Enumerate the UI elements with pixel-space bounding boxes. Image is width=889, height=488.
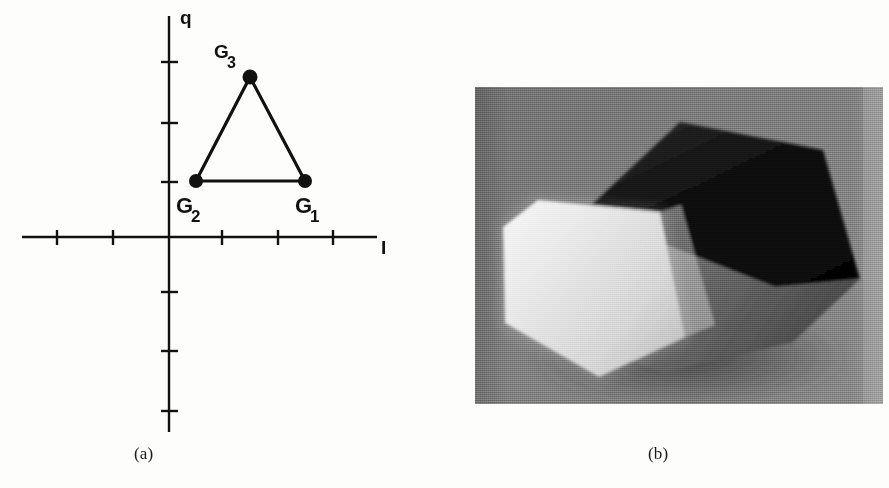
x-axis-label: I	[381, 237, 386, 258]
data-points	[189, 70, 312, 189]
coordinate-plot: q I G 3 G 2 G 1	[0, 0, 440, 440]
point-G3	[243, 70, 258, 85]
caption-panel-a: (a)	[134, 444, 153, 464]
point-G1	[298, 174, 312, 188]
photo-right-highlight	[863, 87, 883, 404]
shaded-block-image	[475, 87, 883, 404]
label-G1-subscript: 1	[310, 207, 319, 226]
triangle-path	[196, 77, 305, 181]
label-G3-subscript: 3	[227, 54, 236, 71]
y-axis-label: q	[180, 7, 192, 28]
label-G2: G 2	[176, 193, 200, 226]
label-G2-subscript: 2	[191, 207, 200, 226]
panel-a-graph: q I G 3 G 2 G 1	[0, 0, 440, 488]
figure-root: q I G 3 G 2 G 1	[0, 0, 889, 488]
label-G1: G 1	[295, 193, 319, 226]
panel-b-photo	[475, 87, 883, 404]
point-G2	[189, 174, 203, 188]
block-render-svg	[475, 87, 883, 404]
label-G3: G 3	[214, 41, 236, 71]
triangle-edges	[196, 77, 305, 181]
caption-panel-b: (b)	[648, 444, 668, 464]
